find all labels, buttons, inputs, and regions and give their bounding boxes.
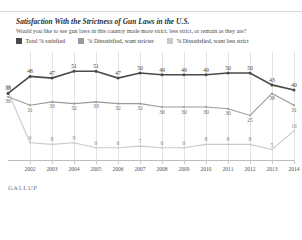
data-label: 33 bbox=[43, 103, 61, 109]
x-tick bbox=[140, 160, 141, 164]
data-label: 49 bbox=[197, 67, 215, 73]
x-axis-label: 2011 bbox=[216, 166, 240, 172]
x-tick bbox=[96, 160, 97, 164]
data-label: 32 bbox=[65, 105, 83, 111]
data-label: 31 bbox=[21, 107, 39, 113]
data-label: 6 bbox=[109, 140, 127, 146]
data-label: 7 bbox=[131, 138, 149, 144]
x-tick bbox=[184, 160, 185, 164]
data-label: 8 bbox=[241, 136, 259, 142]
data-label: 9 bbox=[65, 135, 83, 141]
source-logo: GALLUP bbox=[8, 184, 38, 191]
x-tick bbox=[74, 160, 75, 164]
data-label: 40 bbox=[285, 82, 302, 88]
data-label: 51 bbox=[87, 63, 105, 69]
x-axis-label: 2002 bbox=[18, 166, 42, 172]
data-label: 8 bbox=[43, 136, 61, 142]
data-label: 50 bbox=[219, 65, 237, 71]
x-axis-label: 2005 bbox=[84, 166, 108, 172]
x-axis-label: 2008 bbox=[150, 166, 174, 172]
data-label: 5 bbox=[263, 142, 281, 148]
x-tick bbox=[52, 160, 53, 164]
data-label: 38 bbox=[263, 95, 281, 101]
x-tick bbox=[30, 160, 31, 164]
data-label: 6 bbox=[87, 140, 105, 146]
x-axis-labels: 2002200320042005200620072008200920102011… bbox=[0, 166, 302, 176]
x-tick bbox=[272, 160, 273, 164]
data-label: 47 bbox=[109, 70, 127, 76]
data-label: 16 bbox=[285, 123, 302, 129]
data-label: 39 bbox=[0, 84, 17, 90]
data-label: 31 bbox=[285, 107, 302, 113]
data-label: 47 bbox=[43, 70, 61, 76]
data-label: 8 bbox=[219, 136, 237, 142]
data-label: 49 bbox=[175, 67, 193, 73]
x-tick bbox=[294, 160, 295, 164]
data-label: 51 bbox=[65, 63, 83, 69]
data-label: 30 bbox=[175, 109, 193, 115]
data-label: 48 bbox=[21, 68, 39, 74]
x-axis-label: 2010 bbox=[194, 166, 218, 172]
data-label: 8 bbox=[197, 136, 215, 142]
data-label: 32 bbox=[109, 105, 127, 111]
x-axis-label: 2004 bbox=[62, 166, 86, 172]
data-label: 30 bbox=[219, 110, 237, 116]
x-tick bbox=[118, 160, 119, 164]
x-tick bbox=[250, 160, 251, 164]
data-label: 33 bbox=[87, 103, 105, 109]
data-label: 6 bbox=[175, 140, 193, 146]
x-tick bbox=[162, 160, 163, 164]
x-axis-label: 2014 bbox=[282, 166, 302, 172]
data-label: 49 bbox=[153, 67, 171, 73]
x-axis-label: 2007 bbox=[128, 166, 152, 172]
data-label: 30 bbox=[153, 109, 171, 115]
x-axis-label: 2003 bbox=[40, 166, 64, 172]
data-label: 32 bbox=[131, 105, 149, 111]
data-label: 30 bbox=[197, 109, 215, 115]
data-label: 9 bbox=[21, 135, 39, 141]
data-label: 25 bbox=[241, 117, 259, 123]
data-label: 6 bbox=[153, 140, 171, 146]
x-tick bbox=[206, 160, 207, 164]
x-axis-label: 2006 bbox=[106, 166, 130, 172]
x-axis-label: 2012 bbox=[238, 166, 262, 172]
data-label: 50 bbox=[131, 65, 149, 71]
x-tick bbox=[228, 160, 229, 164]
data-label: 43 bbox=[263, 77, 281, 83]
x-axis-label: 2009 bbox=[172, 166, 196, 172]
data-label: 50 bbox=[241, 65, 259, 71]
data-label: 36 bbox=[0, 98, 17, 104]
x-axis-label: 2013 bbox=[260, 166, 284, 172]
